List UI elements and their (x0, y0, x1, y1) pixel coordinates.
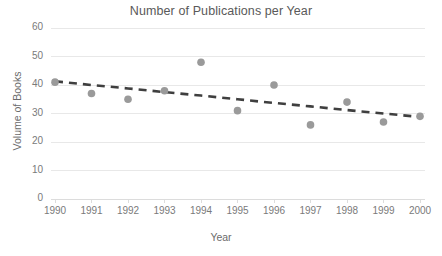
chart-container: Number of Publications per Year Volume o… (0, 0, 442, 256)
x-axis-tick-marks (55, 199, 420, 203)
plot-area (0, 0, 442, 256)
data-point-markers (51, 58, 424, 128)
